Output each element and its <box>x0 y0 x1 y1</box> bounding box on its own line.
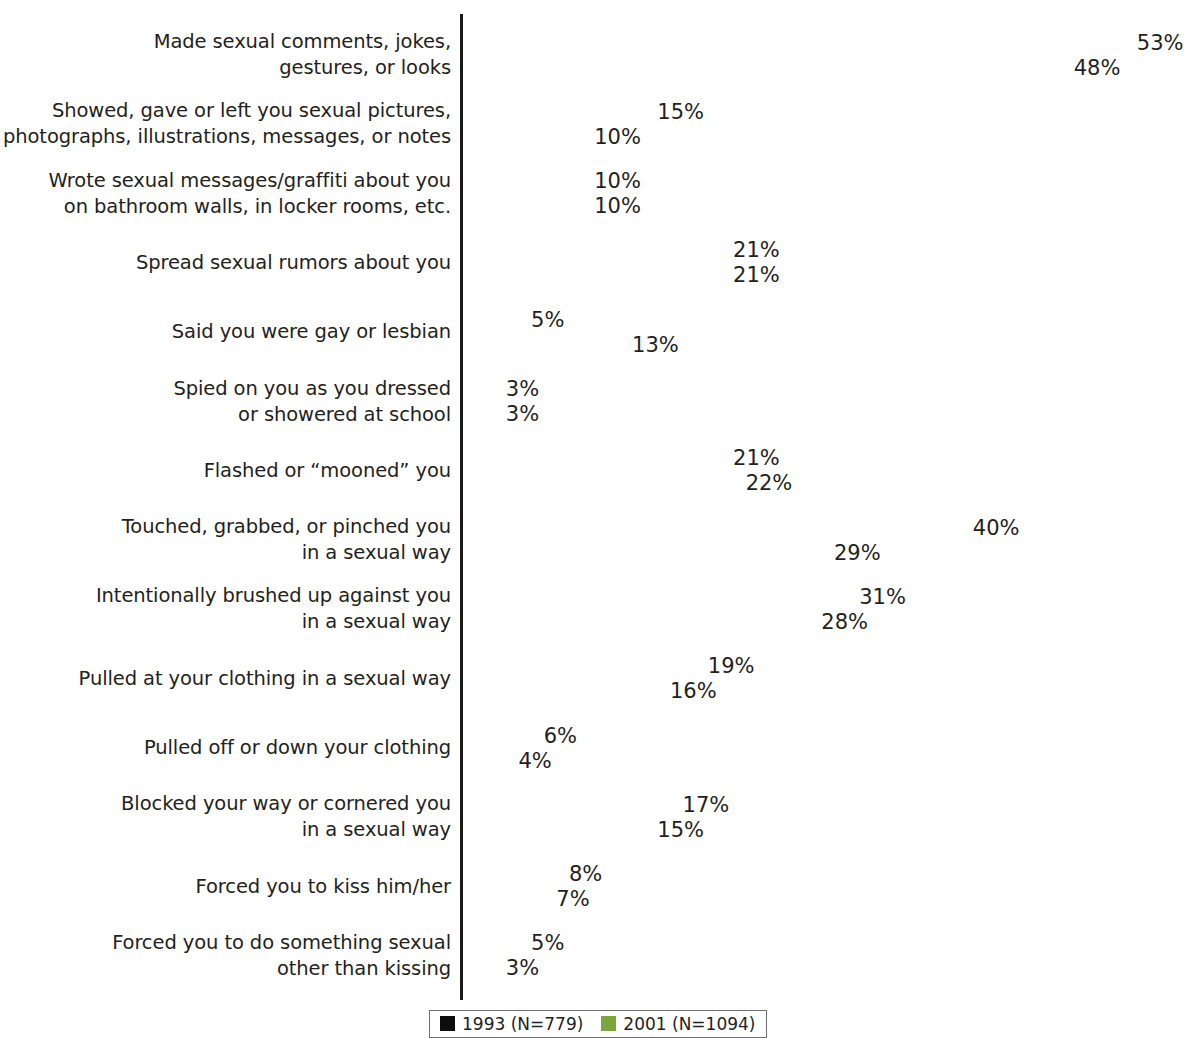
bar-value-label: 3% <box>500 958 539 979</box>
bar-value-label: 28% <box>815 611 868 632</box>
bar-value-label: 15% <box>651 819 704 840</box>
bar-row: 13% <box>462 335 626 354</box>
bar-value-label: 15% <box>651 101 704 122</box>
bar-value-label: 31% <box>853 586 906 607</box>
bar-row: 15% <box>462 820 651 839</box>
category-label: Blocked your way or cornered you in a se… <box>0 791 451 843</box>
legend-swatch-1993-icon <box>440 1016 455 1031</box>
legend-entry-2001: 2001 (N=1094) <box>601 1015 755 1033</box>
bar-row: 5% <box>462 934 525 953</box>
bar-row: 4% <box>462 751 512 770</box>
category-label: Forced you to kiss him/her <box>0 874 451 900</box>
bar-row: 22% <box>462 474 740 493</box>
legend-swatch-2001-icon <box>601 1016 616 1031</box>
bar-row: 53% <box>462 33 1131 52</box>
category-label: Pulled at your clothing in a sexual way <box>0 666 451 692</box>
bar-value-label: 19% <box>702 656 755 677</box>
bar-value-label: 10% <box>588 171 641 192</box>
bar-value-label: 8% <box>563 864 602 885</box>
bar-row: 21% <box>462 241 727 260</box>
bar-value-label: 6% <box>538 725 577 746</box>
bar-value-label: 29% <box>828 542 881 563</box>
bar-value-label: 5% <box>525 933 564 954</box>
bar-value-label: 10% <box>588 126 641 147</box>
bar-value-label: 22% <box>740 473 793 494</box>
category-label: Touched, grabbed, or pinched you in a se… <box>0 514 451 566</box>
category-label: Spread sexual rumors about you <box>0 250 451 276</box>
bar-value-label: 13% <box>626 334 679 355</box>
bar-value-label: 3% <box>500 404 539 425</box>
category-label: Spied on you as you dressed or showered … <box>0 376 451 428</box>
bar-value-label: 10% <box>588 196 641 217</box>
category-label: Pulled off or down your clothing <box>0 735 451 761</box>
bar-row: 3% <box>462 959 500 978</box>
legend-label-1993: 1993 (N=779) <box>462 1015 583 1033</box>
bar-row: 6% <box>462 726 538 745</box>
bar-value-label: 21% <box>727 265 780 286</box>
bar-value-label: 40% <box>967 517 1020 538</box>
bar-row: 21% <box>462 266 727 285</box>
category-label: Wrote sexual messages/graffiti about you… <box>0 168 451 220</box>
bar-row: 5% <box>462 310 525 329</box>
category-label: Flashed or “mooned” you <box>0 458 451 484</box>
category-label: Said you were gay or lesbian <box>0 319 451 345</box>
legend-label-2001: 2001 (N=1094) <box>623 1015 755 1033</box>
category-label: Made sexual comments, jokes, gestures, o… <box>0 29 451 81</box>
bar-value-label: 21% <box>727 240 780 261</box>
bar-value-label: 53% <box>1131 32 1184 53</box>
bar-row: 28% <box>462 612 815 631</box>
y-axis-line <box>460 14 463 1000</box>
bar-row: 40% <box>462 518 967 537</box>
bar-value-label: 4% <box>512 750 551 771</box>
bar-value-label: 7% <box>550 889 589 910</box>
chart-legend: 1993 (N=779) 2001 (N=1094) <box>429 1010 767 1038</box>
category-label: Showed, gave or left you sexual pictures… <box>0 98 451 150</box>
bar-row: 3% <box>462 405 500 424</box>
bar-row: 17% <box>462 795 677 814</box>
legend-entry-1993: 1993 (N=779) <box>440 1015 583 1033</box>
bar-value-label: 16% <box>664 681 717 702</box>
bar-value-label: 17% <box>677 794 730 815</box>
bar-value-label: 48% <box>1068 57 1121 78</box>
bar-row: 29% <box>462 543 828 562</box>
bar-row: 3% <box>462 380 500 399</box>
bar-row: 31% <box>462 587 853 606</box>
bar-row: 10% <box>462 197 588 216</box>
bar-row: 19% <box>462 657 702 676</box>
bar-value-label: 5% <box>525 309 564 330</box>
plot-area: Made sexual comments, jokes, gestures, o… <box>0 0 1187 1005</box>
bar-row: 10% <box>462 127 588 146</box>
bar-row: 16% <box>462 682 664 701</box>
category-label: Intentionally brushed up against you in … <box>0 583 451 635</box>
bar-row: 21% <box>462 449 727 468</box>
bar-row: 8% <box>462 865 563 884</box>
category-label: Forced you to do something sexual other … <box>0 930 451 982</box>
bar-value-label: 21% <box>727 448 780 469</box>
bar-value-label: 3% <box>500 379 539 400</box>
bar-row: 10% <box>462 172 588 191</box>
bar-row: 7% <box>462 890 550 909</box>
bar-row: 48% <box>462 58 1068 77</box>
bar-row: 15% <box>462 102 651 121</box>
